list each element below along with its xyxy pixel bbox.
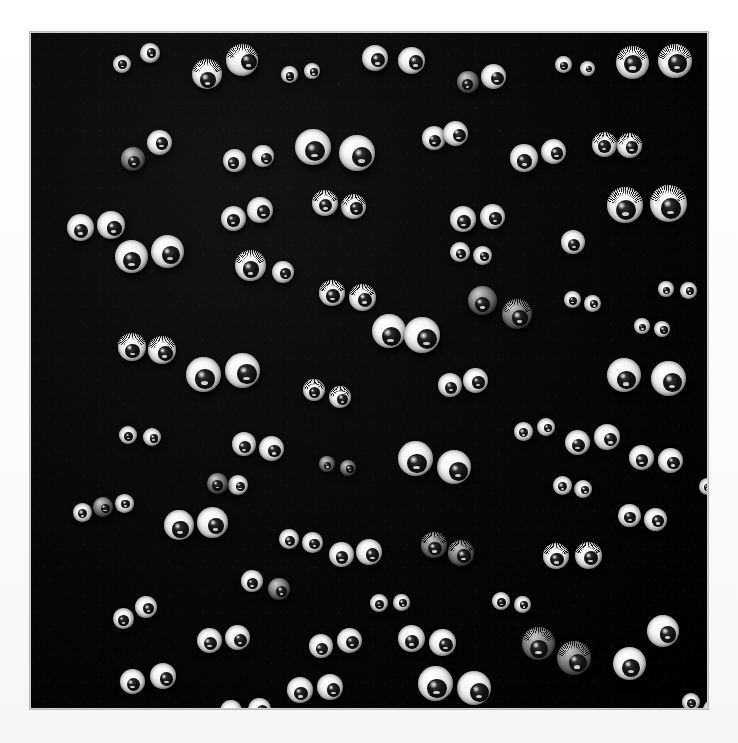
googly-eye xyxy=(356,539,382,565)
googly-eye xyxy=(287,677,313,703)
pupil-secondary-highlight xyxy=(111,230,116,233)
googly-eye xyxy=(398,441,433,476)
googly-eye xyxy=(564,291,581,308)
googly-eye xyxy=(192,59,222,89)
googly-eye xyxy=(225,353,260,388)
pupil-secondary-highlight xyxy=(319,651,323,653)
pupil-specular-highlight xyxy=(666,375,672,381)
googly-eye xyxy=(457,671,491,705)
pupil-secondary-highlight xyxy=(575,447,579,449)
pupil-specular-highlight xyxy=(229,159,233,163)
googly-eye xyxy=(617,133,642,158)
googly-eye xyxy=(555,56,572,73)
googly-eye xyxy=(561,230,585,254)
eye-white-disc xyxy=(703,700,708,709)
googly-eye xyxy=(647,615,679,647)
pupil-specular-highlight xyxy=(561,63,564,66)
pupil-secondary-highlight xyxy=(483,257,486,259)
googly-eye xyxy=(113,55,131,73)
googly-eye xyxy=(372,314,406,348)
pupil-specular-highlight xyxy=(123,501,126,504)
googly-eye xyxy=(226,44,258,76)
googly-eye xyxy=(658,448,683,473)
pupil-secondary-highlight xyxy=(280,593,284,595)
pupil-secondary-highlight xyxy=(523,606,526,607)
googly-eye xyxy=(658,281,674,297)
googly-eye xyxy=(120,669,145,694)
pupil-specular-highlight xyxy=(128,680,132,684)
pupil-specular-highlight xyxy=(491,214,495,218)
pupil-secondary-highlight xyxy=(354,210,358,212)
pupil-specular-highlight xyxy=(671,56,677,62)
googly-eye xyxy=(594,424,620,450)
pupil-specular-highlight xyxy=(352,204,356,208)
pupil-secondary-highlight xyxy=(493,220,497,222)
pupil-specular-highlight xyxy=(459,551,464,556)
pupil-specular-highlight xyxy=(559,483,562,486)
googly-eye xyxy=(418,666,453,701)
pupil-secondary-highlight xyxy=(574,665,580,668)
googly-eye xyxy=(140,43,160,63)
pupil-specular-highlight xyxy=(259,207,264,212)
googly-eye xyxy=(147,130,172,155)
pupil-specular-highlight xyxy=(245,263,251,269)
pupil-secondary-highlight xyxy=(522,163,527,166)
googly-eye xyxy=(135,596,157,618)
pupil-secondary-highlight xyxy=(522,434,525,436)
googly-eye xyxy=(164,510,194,540)
googly-eye xyxy=(514,422,533,441)
pupil-secondary-highlight xyxy=(326,466,329,467)
googly-eye xyxy=(448,540,474,566)
pupil-specular-highlight xyxy=(533,642,539,648)
pupil-secondary-highlight xyxy=(375,62,380,65)
googly-eye xyxy=(309,634,333,658)
pupil-secondary-highlight xyxy=(159,145,163,147)
googly-eye xyxy=(634,318,650,334)
pupil-secondary-highlight xyxy=(150,54,153,56)
googly-eye xyxy=(93,497,113,517)
pupil-specular-highlight xyxy=(258,707,262,708)
googly-eye xyxy=(574,480,592,498)
pupil-specular-highlight xyxy=(430,681,437,688)
pupil-specular-highlight xyxy=(664,200,671,207)
pupil-specular-highlight xyxy=(420,332,427,339)
pupil-secondary-highlight xyxy=(264,160,268,162)
googly-eye xyxy=(429,629,456,656)
pupil-secondary-highlight xyxy=(341,401,345,403)
googly-eye xyxy=(115,494,134,513)
googly-eye xyxy=(317,674,343,700)
googly-eye xyxy=(502,299,532,329)
pupil-specular-highlight xyxy=(552,555,557,560)
pupil-specular-highlight xyxy=(457,250,460,253)
photograph-black-field xyxy=(31,33,707,708)
pupil-specular-highlight xyxy=(308,144,315,151)
pupil-specular-highlight xyxy=(687,288,690,291)
pupil-secondary-highlight xyxy=(706,488,707,489)
pupil-secondary-highlight xyxy=(554,561,559,563)
pupil-specular-highlight xyxy=(240,367,247,374)
pupil-specular-highlight xyxy=(79,510,82,513)
pupil-specular-highlight xyxy=(198,371,205,378)
pupil-secondary-highlight xyxy=(461,224,466,226)
pupil-secondary-highlight xyxy=(331,692,336,694)
pupil-secondary-highlight xyxy=(121,66,124,67)
pupil-secondary-highlight xyxy=(459,255,462,257)
googly-eye xyxy=(197,628,222,653)
pupil-secondary-highlight xyxy=(370,557,375,559)
pupil-secondary-highlight xyxy=(78,232,83,235)
pupil-secondary-highlight xyxy=(246,64,252,67)
googly-eye xyxy=(186,357,221,392)
pupil-secondary-highlight xyxy=(432,550,437,552)
pupil-secondary-highlight xyxy=(402,604,405,605)
pupil-specular-highlight xyxy=(229,216,233,220)
pupil-secondary-highlight xyxy=(547,429,550,430)
pupil-specular-highlight xyxy=(286,537,289,540)
pupil-specular-highlight xyxy=(654,517,658,521)
pupil-secondary-highlight xyxy=(628,519,632,521)
googly-eye xyxy=(457,71,479,93)
pupil-specular-highlight xyxy=(474,378,478,382)
pupil-secondary-highlight xyxy=(584,491,587,492)
googly-eye xyxy=(207,473,228,494)
googly-eye xyxy=(247,197,273,223)
pupil-specular-highlight xyxy=(337,553,341,557)
